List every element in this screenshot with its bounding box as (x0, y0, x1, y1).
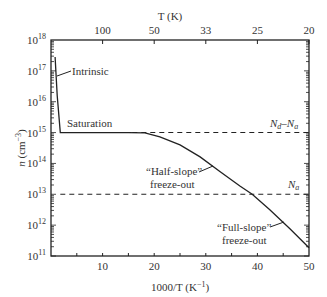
top-tick-label: 50 (149, 24, 161, 36)
y-tick-label: 1012 (27, 217, 46, 231)
x-axis-title: 1000/T (K−1) (151, 280, 209, 294)
carrier-concentration-curve (55, 57, 309, 248)
x-tick-label: 30 (200, 260, 212, 272)
y-tick-label: 1018 (27, 32, 46, 46)
label-half-slope-freeze-out: freeze-out (150, 178, 195, 190)
label-saturation: Saturation (67, 117, 113, 129)
x-tick-label: 40 (252, 260, 264, 272)
y-tick-label: 1013 (27, 186, 46, 200)
top-tick-label: 25 (252, 24, 264, 36)
top-tick-label: 20 (304, 24, 316, 36)
y-axis-title: n (cm−3) (14, 129, 28, 167)
top-axis-title: T (K) (158, 10, 183, 23)
x-tick-label: 10 (97, 260, 109, 272)
label-half-slope: “Half-slope” (146, 165, 202, 177)
label-intrinsic: Intrinsic (72, 65, 109, 77)
top-tick-label: 100 (94, 24, 111, 36)
label-nd-na: Nd–Na (269, 117, 298, 131)
x-tick-label: 20 (149, 260, 161, 272)
top-tick-label: 33 (200, 24, 212, 36)
label-full-slope-freeze-out: freeze-out (222, 234, 267, 246)
freeze-out-chart: 1020304050100503325201011101210131014101… (0, 0, 327, 297)
y-tick-label: 1011 (27, 248, 46, 262)
y-tick-label: 1016 (27, 94, 46, 108)
y-tick-label: 1017 (27, 63, 46, 77)
y-tick-label: 1015 (27, 125, 46, 139)
label-na: Na (287, 178, 299, 192)
y-tick-label: 1014 (27, 155, 46, 169)
annotation-leaders (57, 71, 284, 227)
x-tick-label: 50 (304, 260, 316, 272)
label-full-slope: “Full-slope” (217, 221, 271, 233)
axis-ticks: 1020304050100503325201011101210131014101… (27, 24, 315, 272)
